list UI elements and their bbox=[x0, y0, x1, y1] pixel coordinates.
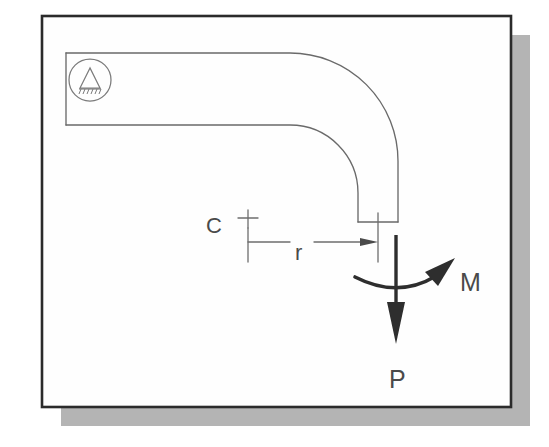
engineering-diagram: C r M P bbox=[0, 0, 549, 447]
center-point-label: C bbox=[206, 213, 222, 238]
force-label: P bbox=[389, 365, 406, 393]
figure-frame bbox=[42, 16, 511, 407]
moment-label: M bbox=[460, 268, 481, 296]
diagram-canvas: C r M P bbox=[0, 0, 549, 447]
radius-dimension-label: r bbox=[295, 240, 302, 265]
